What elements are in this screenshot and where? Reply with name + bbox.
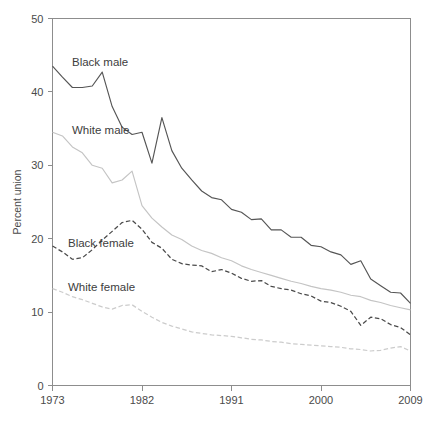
series-annotation-black-male: Black male — [72, 56, 128, 68]
y-tick-label: 40 — [31, 86, 43, 98]
y-tick-label: 10 — [31, 306, 43, 318]
y-tick-label: 30 — [31, 159, 43, 171]
y-tick-label: 20 — [31, 233, 43, 245]
x-tick-label: 1982 — [130, 394, 154, 406]
chart-canvas: 01020304050Percent union1973198219912000… — [0, 0, 431, 425]
x-tick-label: 2000 — [309, 394, 333, 406]
y-axis-title: Percent union — [11, 169, 23, 234]
series-annotation-white-male: White male — [72, 124, 130, 136]
x-tick-label: 1973 — [40, 394, 64, 406]
union-membership-chart: 01020304050Percent union1973198219912000… — [0, 0, 431, 425]
plot-frame — [53, 19, 411, 386]
series-annotation-white-female: White female — [68, 281, 135, 293]
y-tick-label: 0 — [37, 380, 43, 392]
series-annotation-black-female: Black female — [68, 237, 134, 249]
x-tick-label: 2009 — [398, 394, 422, 406]
x-tick-label: 1991 — [219, 394, 243, 406]
y-tick-label: 50 — [31, 13, 43, 25]
series-line-black-male — [53, 66, 411, 303]
